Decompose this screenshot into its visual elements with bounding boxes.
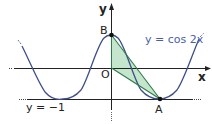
point-b-label: B [100, 24, 108, 37]
point-b [109, 33, 114, 38]
axis-x-label: x [198, 70, 206, 84]
origin-label: O [101, 68, 110, 81]
point-a [158, 97, 163, 102]
point-a-label: A [155, 103, 163, 116]
axis-y-label: y [99, 2, 107, 16]
y-axis-arrow-icon [109, 3, 114, 10]
curve-label: y = cos 2x [145, 33, 203, 46]
line-label: y = −1 [26, 101, 65, 114]
